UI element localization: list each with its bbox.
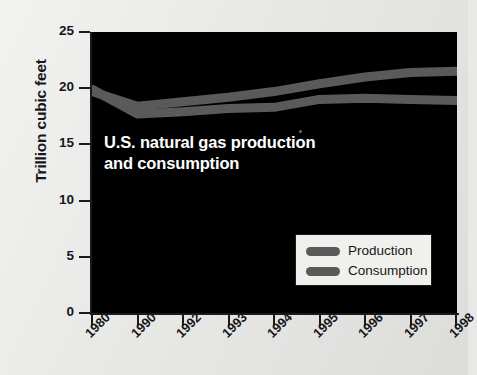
scan-speck <box>299 130 302 133</box>
legend-item-production: Production <box>306 241 431 261</box>
y-axis-tick-label: 15 <box>34 135 74 150</box>
chart-legend: Production Consumption <box>295 234 432 286</box>
y-axis-title: Trillion cubic feet <box>32 26 50 216</box>
y-axis-tick <box>79 31 90 33</box>
y-axis-tick <box>79 87 90 89</box>
y-axis-tick <box>79 200 90 202</box>
plot-caption: U.S. natural gas production and consumpt… <box>104 132 315 174</box>
y-axis-tick-label: 5 <box>34 248 74 263</box>
plot-caption-line-1: U.S. natural gas production <box>104 132 315 153</box>
y-axis-tick <box>79 143 90 145</box>
legend-swatch-production <box>306 247 340 256</box>
legend-label-production: Production <box>348 244 413 258</box>
plot-area: U.S. natural gas production and consumpt… <box>92 32 457 313</box>
scan-speck <box>177 114 179 116</box>
y-axis-tick <box>79 312 90 314</box>
y-axis-tick-label: 0 <box>34 304 74 319</box>
legend-swatch-consumption <box>306 267 340 276</box>
y-axis-tick-label: 10 <box>34 192 74 207</box>
legend-item-consumption: Consumption <box>306 261 431 281</box>
y-axis-tick <box>79 256 90 258</box>
y-axis-tick-label: 20 <box>34 79 74 94</box>
plot-caption-line-2: and consumption <box>104 153 315 174</box>
y-axis-line <box>90 32 92 315</box>
legend-label-consumption: Consumption <box>348 264 428 278</box>
y-axis-tick-label: 25 <box>34 23 74 38</box>
